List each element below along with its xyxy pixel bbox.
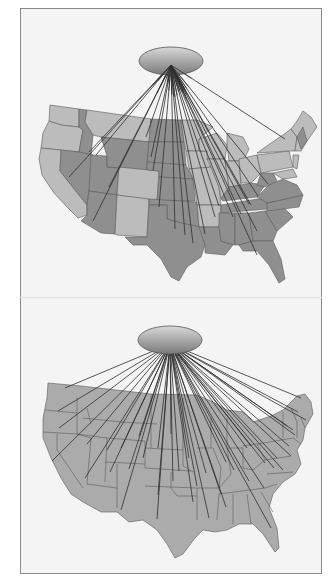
- state-new-jersey: [293, 155, 299, 169]
- state-pennsylvania: [257, 151, 293, 173]
- top-flow-map-panel: [21, 9, 321, 297]
- state-wyoming: [101, 137, 149, 170]
- top-flow-map: [21, 9, 321, 297]
- state-new-york: [257, 129, 297, 153]
- state-maryland: [273, 169, 297, 179]
- bottom-flow-map-panel: [21, 298, 321, 573]
- us-map-states: [39, 105, 317, 283]
- bottom-flow-map: [21, 298, 321, 573]
- state-new-mexico: [115, 195, 149, 237]
- state-mississippi: [219, 213, 235, 245]
- hub-ellipse: [138, 326, 202, 354]
- state-kansas: [157, 177, 195, 201]
- state-south-dakota: [147, 142, 186, 165]
- state-arkansas: [197, 205, 221, 227]
- state-montana: [85, 110, 151, 142]
- state-florida: [239, 241, 285, 283]
